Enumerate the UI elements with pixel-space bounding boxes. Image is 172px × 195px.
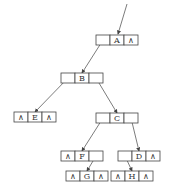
data-field-text: E [32,113,38,122]
left-pointer-field-text: ∧ [70,172,76,181]
left-pointer-field-text: ∧ [18,113,24,122]
tree-node-A: A∧ [96,35,138,45]
root-pointer [118,4,127,34]
right-pointer-field-text: ∧ [98,172,104,181]
data-field-text: C [114,114,120,123]
data-field-text: A [113,36,120,45]
tree-node-F: ∧F [61,151,103,161]
data-field-text: B [79,74,85,83]
tree-node-C: C [96,113,138,123]
tree-node-H: ∧H∧ [111,171,153,181]
right-pointer-field-text: ∧ [143,172,149,181]
data-field-text: G [84,172,90,181]
data-field-text: H [129,172,136,181]
left-pointer-field [96,113,110,123]
tree-node-D: D∧ [118,151,160,161]
right-pointer-field [89,151,103,161]
right-pointer-field-text: ∧ [150,152,156,161]
binary-tree-diagram: A∧B∧E∧C∧FD∧∧G∧∧H∧ [0,0,172,195]
data-field-text: F [79,152,85,161]
tree-node-B: B [61,73,103,83]
data-field-text: D [136,152,142,161]
left-pointer-field-text: ∧ [65,152,71,161]
tree-node-G: ∧G∧ [66,171,108,181]
right-pointer-field-text: ∧ [46,113,52,122]
right-pointer-field [124,113,138,123]
left-pointer-field [61,73,75,83]
left-pointer-field-text: ∧ [115,172,121,181]
left-pointer-field [96,35,110,45]
right-pointer-field-text: ∧ [128,36,134,45]
left-pointer-field [118,151,132,161]
right-pointer-field [89,73,103,83]
tree-node-E: ∧E∧ [14,112,56,122]
